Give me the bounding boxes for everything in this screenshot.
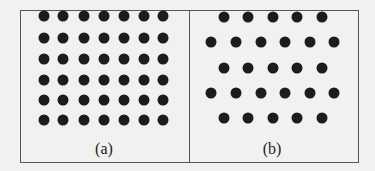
dot-a [58, 115, 69, 126]
dot-a [158, 11, 169, 22]
dot-b [292, 12, 303, 23]
dot-a [39, 115, 50, 126]
caption-b: (b) [263, 140, 282, 158]
dot-a [99, 54, 110, 65]
dot-a [58, 95, 69, 106]
dot-a [58, 33, 69, 44]
dot-b [243, 12, 254, 23]
dot-a [79, 95, 90, 106]
dot-b [268, 12, 279, 23]
dot-a [79, 54, 90, 65]
dot-a [158, 54, 169, 65]
dot-b [256, 88, 267, 99]
dot-a [99, 115, 110, 126]
dot-a [79, 33, 90, 44]
dot-b [280, 37, 291, 48]
dot-b [317, 113, 328, 124]
dot-b [329, 37, 340, 48]
dot-b [292, 113, 303, 124]
dot-a [58, 75, 69, 86]
dot-a [158, 95, 169, 106]
dot-a [58, 11, 69, 22]
dot-a [139, 95, 150, 106]
dot-a [99, 95, 110, 106]
dot-a [139, 75, 150, 86]
dot-b [268, 63, 279, 74]
dot-a [139, 115, 150, 126]
dot-b [317, 12, 328, 23]
dot-a [158, 115, 169, 126]
dot-a [119, 95, 130, 106]
dot-a [39, 11, 50, 22]
dot-b [219, 63, 230, 74]
dot-b [256, 37, 267, 48]
dot-b [280, 88, 291, 99]
dot-b [292, 63, 303, 74]
dot-b [219, 113, 230, 124]
dot-a [99, 75, 110, 86]
dot-a [99, 11, 110, 22]
dot-a [39, 75, 50, 86]
dot-a [139, 33, 150, 44]
dot-a [119, 75, 130, 86]
dot-b [317, 63, 328, 74]
dot-a [119, 54, 130, 65]
dot-b [206, 37, 217, 48]
dot-b [206, 88, 217, 99]
dot-b [231, 37, 242, 48]
dot-a [139, 54, 150, 65]
dot-b [231, 88, 242, 99]
panel-divider [189, 10, 190, 163]
dot-a [39, 54, 50, 65]
dot-b [329, 88, 340, 99]
dot-a [79, 115, 90, 126]
dot-a [119, 11, 130, 22]
dot-a [158, 75, 169, 86]
caption-a: (a) [95, 140, 113, 158]
dot-a [99, 33, 110, 44]
dot-b [305, 37, 316, 48]
dot-a [39, 33, 50, 44]
dot-b [243, 113, 254, 124]
dot-b [219, 12, 230, 23]
dot-a [119, 115, 130, 126]
dot-a [79, 75, 90, 86]
dot-b [305, 88, 316, 99]
dot-b [268, 113, 279, 124]
dot-a [39, 95, 50, 106]
dot-a [139, 11, 150, 22]
dot-a [158, 33, 169, 44]
dot-a [58, 54, 69, 65]
dot-b [243, 63, 254, 74]
dot-a [79, 11, 90, 22]
dot-a [119, 33, 130, 44]
